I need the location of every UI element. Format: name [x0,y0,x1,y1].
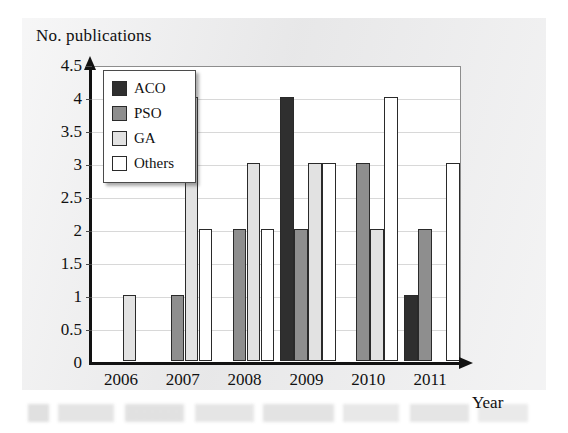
y-tick-label: 3.5 [36,123,82,140]
y-tick-label: 0 [36,354,82,371]
chart-legend: ACOPSOGAOthers [103,70,196,183]
legend-item-ga: GA [112,127,156,150]
scanned-page: No. publications Year 00.511.522.533.544… [0,0,568,433]
x-tick-label-2008: 2008 [210,370,280,390]
y-tick-label: 0.5 [36,321,82,338]
y-tick-label: 4 [36,90,82,107]
legend-item-pso: PSO [112,102,162,125]
y-tick-label: 1 [36,288,82,305]
y-tick-label: 3 [36,156,82,173]
legend-swatch-ga-icon [112,131,127,146]
x-tick-label-2011: 2011 [395,370,465,390]
x-tick-label-2010: 2010 [333,370,403,390]
legend-swatch-others-icon [112,156,127,171]
y-tick-mark [86,330,92,331]
legend-label: GA [134,131,156,146]
y-tick-label: 1.5 [36,255,82,272]
legend-label: ACO [134,81,166,96]
legend-item-others: Others [112,152,174,175]
y-tick-label: 4.5 [36,57,82,74]
x-tick-label-2009: 2009 [271,370,341,390]
x-tick-label-2006: 2006 [86,370,156,390]
legend-item-aco: ACO [112,77,166,100]
y-axis-ticks: 00.511.522.533.544.5 [0,0,568,433]
y-tick-label: 2 [36,222,82,239]
legend-swatch-pso-icon [112,106,127,121]
legend-swatch-aco-icon [112,81,127,96]
y-tick-mark [86,66,92,67]
y-tick-mark [86,297,92,298]
y-tick-mark [86,99,92,100]
y-tick-mark [86,231,92,232]
y-tick-mark [86,198,92,199]
y-tick-mark [86,132,92,133]
y-tick-mark [86,264,92,265]
y-tick-label: 2.5 [36,189,82,206]
x-tick-label-2007: 2007 [148,370,218,390]
y-tick-mark [86,165,92,166]
legend-label: PSO [134,106,162,121]
legend-label: Others [134,156,174,171]
bar-chart-figure: No. publications Year 00.511.522.533.544… [0,0,568,433]
